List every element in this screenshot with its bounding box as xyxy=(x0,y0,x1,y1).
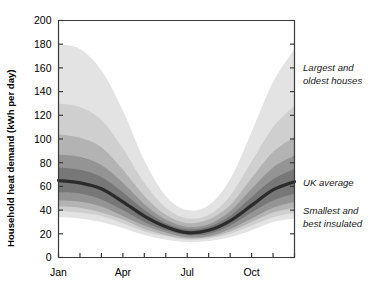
y-tick-label: 60 xyxy=(40,180,52,192)
y-tick-label: 0 xyxy=(46,251,52,263)
y-tick-label: 180 xyxy=(34,38,52,50)
y-tick-label: 200 xyxy=(34,14,52,26)
chart-figure: 020406080100120140160180200 JanAprJulOct… xyxy=(0,0,376,303)
annotation-largest-oldest: Largest and xyxy=(303,62,354,73)
annotation-uk-average: UK average xyxy=(303,177,354,188)
annotation-smallest-insulated: Smallest and xyxy=(303,205,359,216)
y-tick-label: 100 xyxy=(34,133,52,145)
annotation-largest-oldest-line2: oldest houses xyxy=(303,75,362,86)
x-tick-label: Jul xyxy=(181,266,194,278)
y-tick-label: 120 xyxy=(34,109,52,121)
x-tick-label: Jan xyxy=(50,266,67,278)
annotation-smallest-insulated-line2: best insulated xyxy=(303,218,363,229)
y-axis-title: Household heat demand (kWh per day) xyxy=(5,69,16,247)
y-tick-label: 20 xyxy=(40,228,52,240)
y-tick-label: 40 xyxy=(40,204,52,216)
fan-chart: 020406080100120140160180200 JanAprJulOct… xyxy=(0,0,376,303)
y-tick-label: 160 xyxy=(34,62,52,74)
x-tick-label: Oct xyxy=(243,266,259,278)
y-tick-label: 140 xyxy=(34,85,52,97)
y-tick-label: 80 xyxy=(40,157,52,169)
x-tick-label: Apr xyxy=(115,266,132,278)
